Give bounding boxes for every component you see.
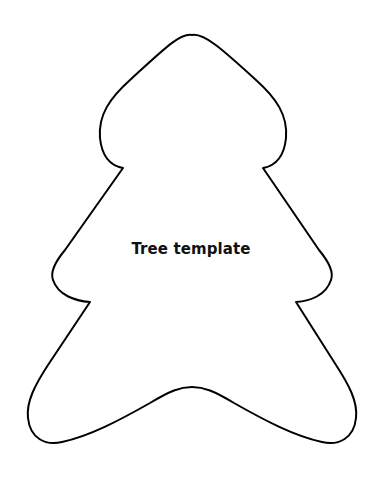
tree-outline-path	[28, 35, 357, 443]
template-title: Tree template	[0, 240, 382, 258]
